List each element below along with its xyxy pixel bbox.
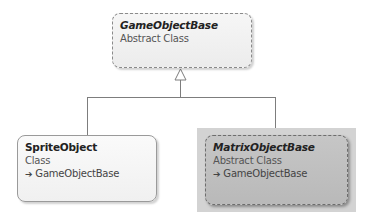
inherit-arrow-icon: ➔ bbox=[213, 169, 220, 179]
class-name: SpriteObject bbox=[25, 141, 149, 153]
class-name: MatrixObjectBase bbox=[213, 141, 340, 153]
class-node-spriteobject[interactable]: SpriteObject Class ➔GameObjectBase bbox=[17, 135, 157, 202]
connector-sprite bbox=[87, 97, 88, 135]
inherit-arrow-icon: ➔ bbox=[25, 169, 32, 179]
inheritance-bus bbox=[87, 97, 275, 98]
inheritance-stem bbox=[180, 80, 181, 97]
inheritance-arrowhead-icon bbox=[174, 68, 187, 81]
base-class-name: GameObjectBase bbox=[35, 168, 119, 179]
class-node-gameobjectbase[interactable]: GameObjectBase Abstract Class bbox=[112, 13, 252, 68]
base-class-name: GameObjectBase bbox=[223, 168, 307, 179]
class-kind: Abstract Class bbox=[213, 155, 340, 166]
base-class-ref: ➔GameObjectBase bbox=[25, 168, 149, 179]
class-node-matrixobjectbase[interactable]: MatrixObjectBase Abstract Class ➔GameObj… bbox=[205, 135, 348, 205]
class-name: GameObjectBase bbox=[120, 19, 244, 31]
class-kind: Class bbox=[25, 155, 149, 166]
class-kind: Abstract Class bbox=[120, 33, 244, 44]
base-class-ref: ➔GameObjectBase bbox=[213, 168, 340, 179]
